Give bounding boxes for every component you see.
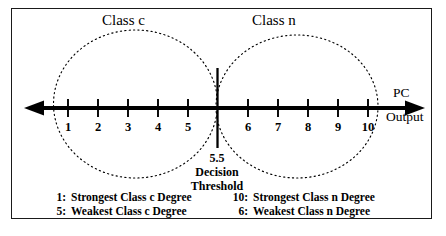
legend-key: 10:	[230, 191, 248, 203]
legend-text: Strongest Class c Degree	[71, 191, 192, 203]
legend-item: 1:Strongest Class c Degree	[48, 191, 192, 203]
legend-key: 1:	[48, 191, 66, 203]
tick-label-7: 7	[268, 121, 288, 134]
axis-label-output: Output	[386, 110, 424, 124]
threshold-value: 5.5	[157, 152, 277, 164]
class-c-title: Class c	[102, 13, 145, 28]
tick-label-5: 5	[178, 121, 198, 134]
tick-label-1: 1	[58, 121, 78, 134]
legend-item: 5:Weakest Class c Degree	[48, 205, 187, 217]
legend-item: 10:Strongest Class n Degree	[230, 191, 375, 203]
legend-item: 6:Weakest Class n Degree	[230, 205, 370, 217]
axis-label-pc: PC	[393, 86, 410, 100]
legend-text: Weakest Class c Degree	[71, 205, 187, 217]
legend-text: Strongest Class n Degree	[253, 191, 375, 203]
legend-text: Weakest Class n Degree	[253, 205, 370, 217]
tick-label-6: 6	[238, 121, 258, 134]
tick-label-8: 8	[298, 121, 318, 134]
tick-label-2: 2	[88, 121, 108, 134]
pc-output-diagram: Class c Class n PC Output 1 2 3 4 5 6 7 …	[0, 0, 446, 236]
tick-label-3: 3	[118, 121, 138, 134]
class-n-title: Class n	[252, 13, 296, 28]
legend-key: 6:	[230, 205, 248, 217]
tick-label-4: 4	[148, 121, 168, 134]
tick-label-10: 10	[358, 121, 378, 134]
tick-label-9: 9	[328, 121, 348, 134]
legend-key: 5:	[48, 205, 66, 217]
threshold-caption-decision: Decision	[157, 166, 277, 178]
